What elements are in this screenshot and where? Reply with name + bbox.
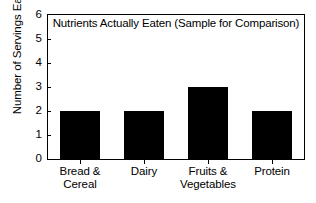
- bar: [188, 87, 228, 159]
- y-tick-label: 1: [30, 129, 42, 141]
- x-category-label-line2: Cereal: [48, 178, 112, 191]
- bar-chart: Number of Servings Eaten 0123456 Nutrien…: [0, 0, 316, 203]
- x-tick-mark: [80, 160, 81, 164]
- y-tick-label: 3: [30, 81, 42, 93]
- x-category-label: Bread &Cereal: [48, 165, 112, 190]
- x-tick-mark: [208, 160, 209, 164]
- bar: [124, 111, 164, 159]
- y-tick-mark: [47, 135, 51, 136]
- x-category-label: Fruits &Vegetables: [176, 165, 240, 190]
- x-tick-mark: [144, 160, 145, 164]
- x-tick-mark: [272, 160, 273, 164]
- y-axis-title: Number of Servings Eaten: [11, 0, 27, 123]
- y-axis-tick-labels: 0123456: [28, 0, 42, 203]
- y-tick-mark: [47, 39, 51, 40]
- y-tick-label: 6: [30, 9, 42, 21]
- y-tick-mark: [47, 87, 51, 88]
- y-tick-label: 4: [30, 57, 42, 69]
- x-category-label-line2: Vegetables: [176, 178, 240, 191]
- y-tick-label: 0: [30, 153, 42, 165]
- y-tick-label: 5: [30, 33, 42, 45]
- y-tick-label: 2: [30, 105, 42, 117]
- y-tick-mark: [47, 111, 51, 112]
- bar: [252, 111, 292, 159]
- y-tick-mark: [47, 63, 51, 64]
- x-category-label: Dairy: [112, 165, 176, 178]
- bars-layer: [48, 15, 304, 159]
- x-category-label: Protein: [240, 165, 304, 178]
- bar: [60, 111, 100, 159]
